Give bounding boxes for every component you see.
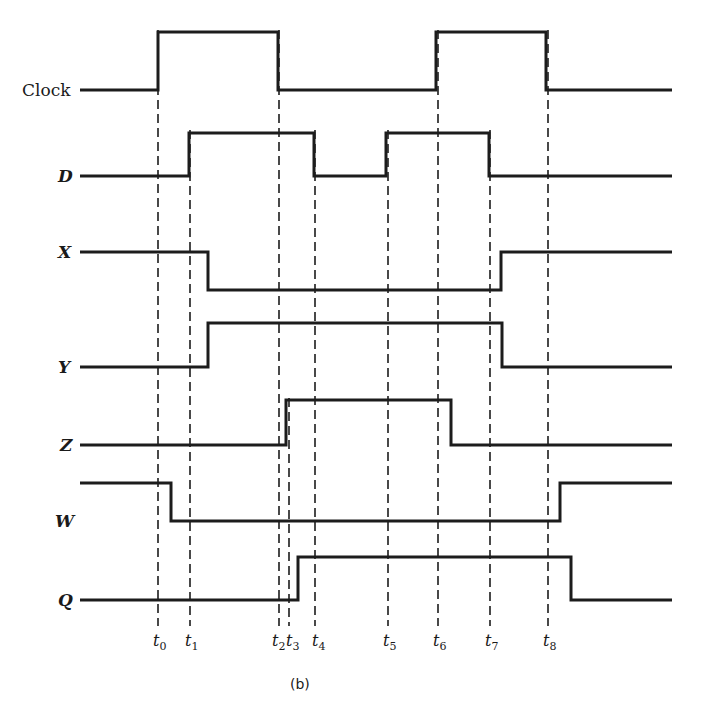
time-marker-labels: t0t1t2t3t4t5t6t7t8 xyxy=(153,631,556,653)
time-marker-lines xyxy=(158,30,548,626)
signal-label-clock: Clock xyxy=(22,80,71,100)
time-marker-label-t6: t6 xyxy=(433,631,446,653)
signal-waveforms xyxy=(80,32,672,600)
signal-labels: ClockDXYZWQ xyxy=(22,80,76,610)
signal-label-z: Z xyxy=(59,435,73,455)
time-marker-label-t2: t2 xyxy=(272,631,285,653)
waveform-z xyxy=(80,400,672,445)
signal-label-q: Q xyxy=(58,590,73,610)
time-marker-label-t0: t0 xyxy=(153,631,166,653)
time-marker-label-t8: t8 xyxy=(543,631,556,653)
time-marker-label-t7: t7 xyxy=(485,631,498,653)
time-marker-label-t3: t3 xyxy=(286,631,299,653)
waveform-d xyxy=(80,133,672,176)
figure-caption: (b) xyxy=(290,676,310,692)
signal-label-d: D xyxy=(57,166,73,186)
waveform-x xyxy=(80,252,672,290)
time-marker-label-t1: t1 xyxy=(185,631,198,653)
waveform-w xyxy=(80,483,672,521)
waveform-q xyxy=(80,557,672,600)
signal-label-w: W xyxy=(55,511,76,531)
waveform-clock xyxy=(80,32,672,90)
signal-label-y: Y xyxy=(58,357,72,377)
time-marker-label-t4: t4 xyxy=(312,631,325,653)
waveform-y xyxy=(80,323,672,367)
time-marker-label-t5: t5 xyxy=(383,631,396,653)
timing-diagram: ClockDXYZWQ t0t1t2t3t4t5t6t7t8 (b) xyxy=(0,0,705,712)
signal-label-x: X xyxy=(57,242,72,262)
